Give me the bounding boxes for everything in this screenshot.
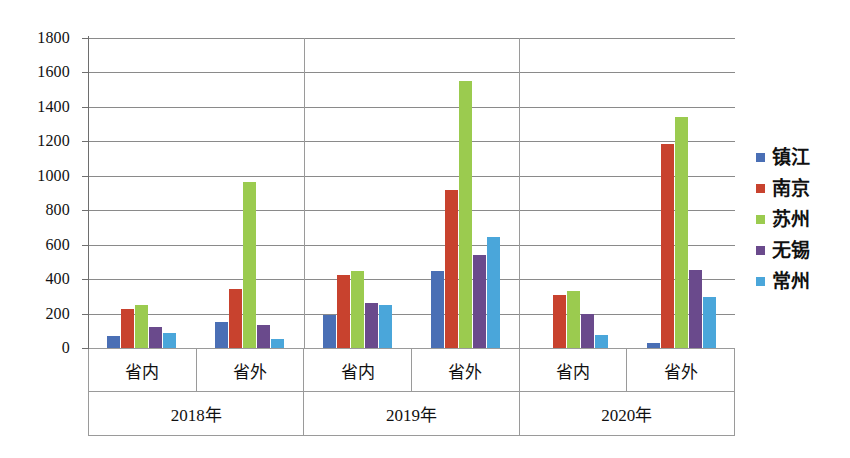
group-separator [519, 38, 520, 348]
bar-苏州[interactable] [567, 291, 580, 348]
bar-苏州[interactable] [135, 305, 148, 348]
bar-group [627, 38, 735, 348]
bar-南京[interactable] [337, 275, 350, 348]
bar-常州[interactable] [487, 237, 500, 348]
bar-南京[interactable] [445, 190, 458, 348]
y-axis-tick [82, 141, 89, 142]
bar-镇江[interactable] [323, 315, 336, 348]
bar-常州[interactable] [703, 297, 716, 348]
category-axis-cell-year: 2019年 [304, 392, 519, 436]
legend-item[interactable]: 常州 [756, 270, 810, 292]
category-axis-cell-sub: 省外 [627, 348, 735, 392]
bar-group [519, 38, 627, 348]
bar-镇江[interactable] [107, 336, 120, 348]
y-axis-labels: 020040060080010001200140016001800 [0, 0, 80, 458]
bar-group [411, 38, 519, 348]
category-axis-cell-sub: 省内 [304, 348, 412, 392]
bar-group [88, 38, 196, 348]
bar-南京[interactable] [121, 309, 134, 348]
bar-南京[interactable] [229, 289, 242, 348]
y-axis-tick [82, 107, 89, 108]
legend: 镇江南京苏州无锡常州 [756, 146, 810, 292]
bar-镇江[interactable] [215, 322, 228, 348]
y-axis-tick [82, 210, 89, 211]
legend-item[interactable]: 无锡 [756, 239, 810, 261]
category-axis: 省内省外省内省外省内省外 2018年2019年2020年 [88, 348, 735, 436]
bar-常州[interactable] [379, 305, 392, 348]
bar-南京[interactable] [553, 295, 566, 348]
bar-南京[interactable] [661, 144, 674, 348]
y-axis-tick-label: 600 [45, 236, 70, 254]
y-axis-tick-label: 800 [45, 201, 70, 219]
category-axis-cell-year: 2018年 [88, 392, 304, 436]
group-separator [304, 38, 305, 348]
y-axis-tick [82, 38, 89, 39]
bar-无锡[interactable] [257, 325, 270, 348]
bar-常州[interactable] [163, 333, 176, 349]
y-axis-tick-label: 0 [62, 339, 70, 357]
bar-常州[interactable] [595, 335, 608, 348]
legend-label: 苏州 [772, 210, 810, 229]
bar-苏州[interactable] [675, 117, 688, 348]
bar-镇江[interactable] [431, 271, 444, 348]
bar-group [196, 38, 304, 348]
bar-groups [88, 38, 735, 348]
legend-item[interactable]: 南京 [756, 177, 810, 199]
y-axis-tick [82, 348, 89, 349]
bar-苏州[interactable] [459, 81, 472, 348]
bar-无锡[interactable] [149, 327, 162, 348]
category-axis-cell-sub: 省外 [197, 348, 305, 392]
y-axis-tick [82, 314, 89, 315]
bar-无锡[interactable] [473, 255, 486, 348]
plot-area [88, 38, 735, 348]
y-axis-tick-label: 1400 [37, 98, 70, 116]
legend-swatch-icon [756, 153, 765, 162]
bar-chart: 020040060080010001200140016001800 省内省外省内… [0, 0, 850, 458]
y-axis-tick [82, 72, 89, 73]
bar-苏州[interactable] [243, 182, 256, 348]
y-axis-tick-label: 1800 [37, 29, 70, 47]
y-axis-tick [82, 245, 89, 246]
bar-常州[interactable] [271, 339, 284, 348]
category-axis-yearrow: 2018年2019年2020年 [88, 392, 735, 436]
y-axis-tick-label: 1000 [37, 167, 70, 185]
category-axis-cell-year: 2020年 [520, 392, 735, 436]
bar-苏州[interactable] [351, 271, 364, 348]
legend-swatch-icon [756, 277, 765, 286]
legend-label: 镇江 [772, 148, 810, 167]
category-axis-cell-sub: 省外 [412, 348, 520, 392]
legend-swatch-icon [756, 184, 765, 193]
category-axis-subrow: 省内省外省内省外省内省外 [88, 348, 735, 392]
legend-item[interactable]: 镇江 [756, 146, 810, 168]
legend-label: 南京 [772, 179, 810, 198]
bar-group [304, 38, 412, 348]
bar-无锡[interactable] [581, 314, 594, 348]
y-axis-tick [82, 279, 89, 280]
legend-label: 常州 [772, 272, 810, 291]
bar-无锡[interactable] [365, 303, 378, 348]
y-axis-tick-label: 1600 [37, 63, 70, 81]
y-axis-tick [82, 176, 89, 177]
y-axis-tick-label: 1200 [37, 132, 70, 150]
y-axis-tick-label: 400 [45, 270, 70, 288]
legend-swatch-icon [756, 215, 765, 224]
bar-无锡[interactable] [689, 270, 702, 348]
y-axis-tick-label: 200 [45, 305, 70, 323]
legend-swatch-icon [756, 246, 765, 255]
category-axis-cell-sub: 省内 [88, 348, 197, 392]
legend-item[interactable]: 苏州 [756, 208, 810, 230]
legend-label: 无锡 [772, 241, 810, 260]
category-axis-cell-sub: 省内 [520, 348, 628, 392]
